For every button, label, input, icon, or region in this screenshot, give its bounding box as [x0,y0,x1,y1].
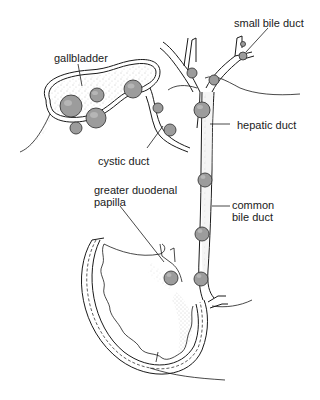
gallstone [86,108,106,128]
gallstone [187,68,197,78]
gallstone [194,272,208,286]
label-greater-duodenal-papilla-1: greater duodenal [94,184,177,196]
gallstone [195,227,209,241]
gallstone [241,42,246,47]
label-gallbladder: gallbladder [54,52,108,64]
gallstone [153,103,163,113]
gallstone [70,122,82,134]
gallstone [239,52,247,60]
liver-edge [168,77,300,95]
gallstone [60,95,82,117]
gallstone [194,102,210,118]
gallstone [164,124,176,136]
label-common-bile-duct-1: common [232,199,274,211]
label-common-bile-duct-2: bile duct [232,211,273,223]
gallstone [124,80,142,98]
label-hepatic-duct: hepatic duct [237,119,296,131]
leader-papilla [120,206,164,262]
label-small-bile-duct: small bile duct [234,17,304,29]
gallbladder [20,60,160,153]
label-greater-duodenal-papilla-2: papilla [94,196,126,208]
duodenum [81,238,252,380]
label-cystic-duct: cystic duct [98,155,149,167]
leader-small-bile-duct [246,28,268,52]
cystic-duct [146,88,190,152]
gallstone [90,88,104,102]
gallstone [198,173,212,187]
gallstone [209,75,219,85]
